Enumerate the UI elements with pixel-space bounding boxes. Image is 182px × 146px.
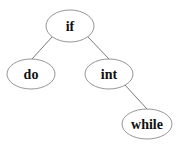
node-while: while bbox=[122, 109, 172, 139]
node-int-label: int bbox=[101, 67, 118, 82]
edge-if-int bbox=[88, 37, 109, 59]
node-if: if bbox=[46, 10, 94, 42]
node-int: int bbox=[85, 59, 133, 89]
node-do-label: do bbox=[24, 67, 39, 82]
binary-tree-diagram: if do int while bbox=[0, 0, 182, 146]
node-if-label: if bbox=[66, 19, 75, 34]
node-while-label: while bbox=[131, 117, 163, 132]
edge-int-while bbox=[125, 85, 147, 109]
node-do: do bbox=[7, 59, 55, 89]
edge-if-do bbox=[32, 37, 52, 59]
